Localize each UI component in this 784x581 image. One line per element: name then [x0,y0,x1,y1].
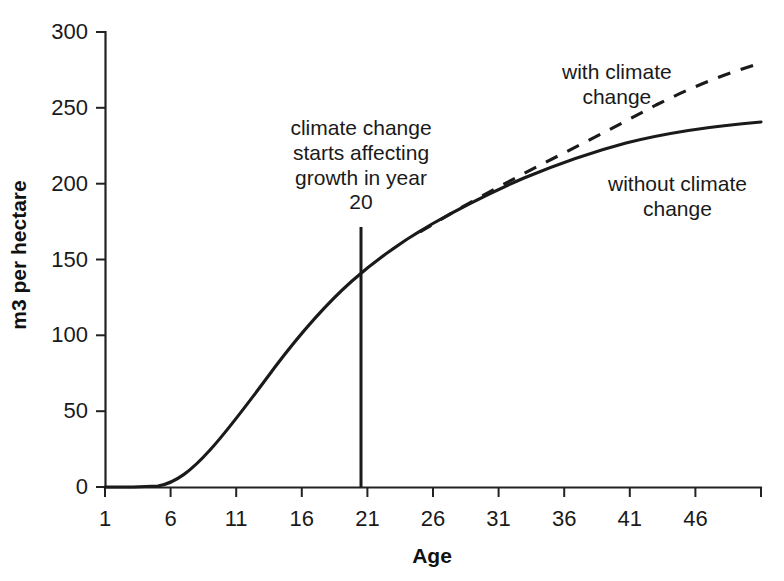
x-tick-label-11: 11 [225,508,248,530]
y-axis-title: m3 per hectare [8,180,29,329]
x-tick-label-21: 21 [355,508,379,530]
x-tick-label-16: 16 [290,508,314,530]
chart-container: 300 250 200 150 100 50 0 1 6 11 16 21 26… [0,0,784,581]
x-tick-label-31: 31 [486,508,510,530]
x-tick-label-1: 1 [99,508,111,530]
x-tick-label-41: 41 [618,508,642,530]
x-tick-label-6: 6 [164,508,176,530]
y-tick-label-250: 250 [0,97,88,119]
x-tick-label-26: 26 [421,508,445,530]
climate-change-marker-note: climate change starts affecting growth i… [290,116,431,215]
x-axis-title: Age [412,545,452,566]
with-climate-change-label: with climate change [562,60,672,110]
x-tick-label-36: 36 [552,508,576,530]
y-tick-label-300: 300 [0,21,88,43]
without-climate-change-label: without climate change [608,172,747,222]
x-tick-label-46: 46 [683,508,707,530]
y-tick-marks [96,32,105,487]
y-tick-label-50: 50 [0,400,88,422]
y-tick-label-0: 0 [0,476,88,498]
